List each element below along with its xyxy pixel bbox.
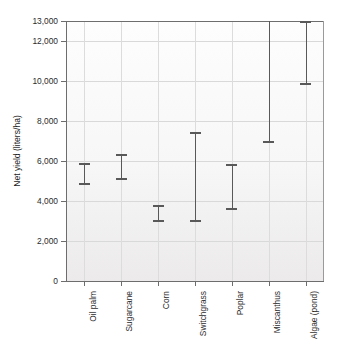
error-bar-cap-lower xyxy=(263,141,274,143)
error-bar-cap-lower xyxy=(153,220,164,222)
x-tick-label: Sugarcane xyxy=(125,291,133,332)
x-tick-mark xyxy=(84,281,85,286)
error-bar-cap-upper xyxy=(300,21,311,23)
x-tick-mark xyxy=(121,281,122,286)
error-bar-stem xyxy=(84,163,85,183)
x-tick-label: Algae (pond) xyxy=(310,291,318,339)
y-tick-label: 6,000 xyxy=(37,157,58,165)
error-bar-stem xyxy=(121,154,122,178)
error-bar-cap-lower xyxy=(226,208,237,210)
x-tick-label: Oil palm xyxy=(89,291,97,322)
x-tick-label: Corn xyxy=(162,291,170,309)
y-tick-label: 4,000 xyxy=(37,197,58,205)
x-tick-mark xyxy=(195,281,196,286)
axis-right-spine xyxy=(323,21,324,281)
x-tick-label: Poplar xyxy=(236,291,244,315)
error-bar-stem xyxy=(195,132,196,220)
error-bar-cap-upper xyxy=(190,132,201,134)
y-tick-mark xyxy=(61,241,66,242)
error-bar-stem xyxy=(269,21,270,141)
y-tick-label: 13,000 xyxy=(32,17,58,25)
y-tick-label: 10,000 xyxy=(32,77,58,85)
y-tick-mark xyxy=(61,41,66,42)
x-tick-mark xyxy=(232,281,233,286)
y-tick-mark xyxy=(61,21,66,22)
axis-top-spine xyxy=(66,21,324,22)
gridline-vertical xyxy=(84,21,85,281)
y-tick-label: 2,000 xyxy=(37,237,58,245)
error-bar-cap-lower xyxy=(116,178,127,180)
gridline-vertical xyxy=(121,21,122,281)
y-tick-mark xyxy=(61,281,66,282)
error-bar-cap-lower xyxy=(190,220,201,222)
axis-left-spine xyxy=(66,21,67,281)
y-tick-mark xyxy=(61,201,66,202)
error-bar-stem xyxy=(306,21,307,83)
error-bar-cap-lower xyxy=(300,83,311,85)
error-bar-cap-lower xyxy=(79,183,90,185)
y-tick-mark xyxy=(61,81,66,82)
error-bar-cap-upper xyxy=(153,205,164,207)
error-bar-stem xyxy=(158,205,159,220)
error-bar-stem xyxy=(232,164,233,208)
y-tick-mark xyxy=(61,121,66,122)
gridline-vertical xyxy=(232,21,233,281)
x-tick-mark xyxy=(269,281,270,286)
chart-container: 02,0004,0006,0008,00010,00012,00013,000 … xyxy=(0,0,360,354)
x-tick-label: Switchgrass xyxy=(199,291,207,336)
y-axis-title: Net yield (liters/ha) xyxy=(13,115,22,187)
y-tick-label: 12,000 xyxy=(32,37,58,45)
error-bar-cap-upper xyxy=(116,154,127,156)
x-tick-label: Miscanthus xyxy=(273,291,281,333)
x-tick-mark xyxy=(306,281,307,286)
y-tick-label: 0 xyxy=(53,277,58,285)
y-tick-label: 8,000 xyxy=(37,117,58,125)
error-bar-cap-upper xyxy=(226,164,237,166)
y-tick-mark xyxy=(61,161,66,162)
gridline-vertical xyxy=(158,21,159,281)
x-tick-mark xyxy=(158,281,159,286)
error-bar-cap-upper xyxy=(79,163,90,165)
